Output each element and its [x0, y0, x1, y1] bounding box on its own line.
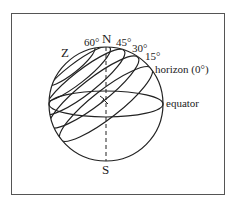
altitude-60-label: 60°: [84, 37, 99, 48]
celestial-sphere-diagram: [0, 0, 237, 207]
north-pole-label: N: [102, 32, 111, 45]
observer-mark: [100, 96, 108, 104]
altitude-30-circle: [36, 41, 131, 123]
equator-label: equator: [166, 98, 199, 109]
altitude-15-label: 15°: [145, 51, 160, 62]
zenith-label: Z: [61, 46, 69, 59]
altitude-45-label: 45°: [116, 37, 131, 48]
altitude-45-circle: [36, 40, 116, 109]
south-pole-label: S: [102, 163, 109, 176]
horizon-label: horizon (0°): [155, 64, 209, 75]
